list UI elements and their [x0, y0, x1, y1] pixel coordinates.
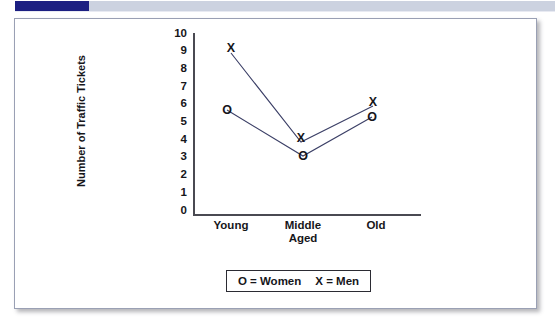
- series-lines: [15, 19, 538, 310]
- data-point-women-middle-aged: O: [293, 150, 313, 162]
- header-bar-underline: [15, 11, 555, 12]
- header-bar-accent-fill: [15, 1, 89, 11]
- data-point-men-young: X: [221, 42, 241, 54]
- data-point-women-old: O: [362, 111, 382, 123]
- header-bar-track: [15, 1, 555, 11]
- data-point-men-middle-aged: X: [291, 132, 311, 144]
- x-tick-line-1: Old: [331, 219, 421, 232]
- data-point-men-old: X: [363, 96, 383, 108]
- figure-card: Number of Traffic Tickets 10 9 8 7 6 5 4…: [14, 18, 537, 309]
- chart-plot-area: Number of Traffic Tickets 10 9 8 7 6 5 4…: [15, 19, 538, 310]
- chart-legend: O = Women X = Men: [226, 270, 371, 292]
- legend-entry-women: O = Women: [238, 275, 301, 287]
- page-header-bar: [0, 0, 555, 13]
- x-tick-label-old: Old: [331, 219, 421, 232]
- data-point-women-young: O: [217, 104, 237, 116]
- legend-entry-men: X = Men: [315, 275, 359, 287]
- x-tick-line-2: Aged: [258, 232, 348, 245]
